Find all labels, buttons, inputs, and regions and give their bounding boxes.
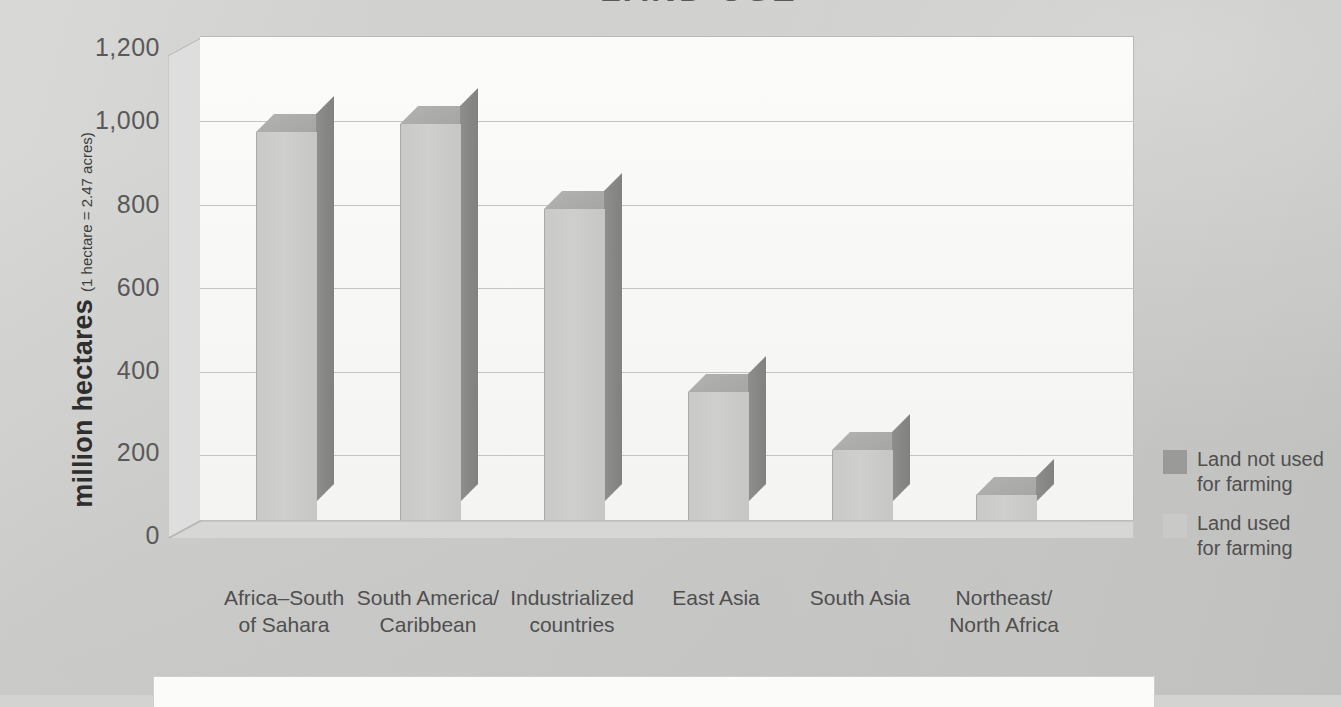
- legend-label-line2: for farming: [1197, 536, 1293, 561]
- y-tick-400: 400: [48, 356, 160, 385]
- bar-side-face: [316, 96, 334, 502]
- bar-side-face: [748, 356, 766, 502]
- x-label-line2: countries: [482, 611, 662, 638]
- legend-label-line1: Land used: [1197, 511, 1293, 536]
- chart-legend: Land not used for farming Land used for …: [1163, 447, 1338, 575]
- y-tick-200: 200: [48, 438, 160, 467]
- chart-plot-area: [168, 36, 1134, 538]
- bar-front-face: [688, 392, 749, 520]
- y-tick-0: 0: [48, 521, 160, 550]
- gridline-800: [200, 205, 1134, 206]
- bar-front-face: [400, 124, 461, 520]
- gridline-200: [200, 455, 1134, 456]
- x-label-line1: Northeast/: [914, 584, 1094, 611]
- bar-front-face: [544, 209, 605, 520]
- y-tick-1200: 1,200: [48, 33, 160, 62]
- legend-label-line1: Land not used: [1197, 447, 1324, 472]
- bar-front-face: [256, 132, 317, 520]
- legend-item-land-used[interactable]: Land used for farming: [1163, 511, 1338, 561]
- page-title-cropped: LAND USE: [600, 0, 1120, 7]
- y-tick-1000: 1,000: [48, 106, 160, 135]
- bar-front-face: [832, 450, 893, 520]
- gridline-1000: [200, 121, 1134, 122]
- legend-item-land-not-used[interactable]: Land not used for farming: [1163, 447, 1338, 497]
- gridline-600: [200, 288, 1134, 289]
- y-tick-600: 600: [48, 273, 160, 302]
- plot-floor: [168, 518, 1134, 538]
- legend-label: Land not used for farming: [1197, 447, 1324, 497]
- caption-box: [153, 676, 1155, 707]
- legend-swatch-icon: [1163, 514, 1187, 538]
- y-tick-800: 800: [48, 190, 160, 219]
- legend-label: Land used for farming: [1197, 511, 1293, 561]
- bar-side-face: [460, 88, 478, 502]
- y-axis-tick-labels: 1,200 1,000 800 600 400 200 0: [10, 0, 160, 695]
- gridline-400: [200, 372, 1134, 373]
- plot-back-wall: [200, 36, 1134, 520]
- page-title-text: LAND USE: [600, 0, 1120, 7]
- bar-side-face: [604, 173, 622, 502]
- legend-label-line2: for farming: [1197, 472, 1324, 497]
- bar-front-face: [976, 495, 1037, 520]
- plot-left-wall: [168, 36, 201, 538]
- legend-swatch-icon: [1163, 450, 1187, 474]
- x-axis-category-labels: Africa–South of Sahara South America/ Ca…: [168, 584, 1148, 654]
- x-label-line2: North Africa: [914, 611, 1094, 638]
- x-label-northeast-north-africa: Northeast/ North Africa: [914, 584, 1094, 638]
